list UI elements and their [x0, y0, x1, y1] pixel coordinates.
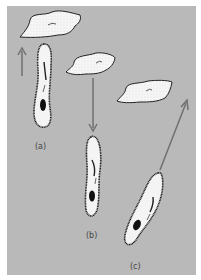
arrow-diagonal-icon	[160, 100, 188, 170]
arrow-down-icon	[89, 78, 97, 131]
food-particle-a	[20, 11, 81, 37]
label-b: (b)	[86, 231, 97, 240]
label-a: (a)	[35, 142, 46, 151]
organism-c	[125, 173, 163, 245]
food-particle-c	[117, 80, 172, 102]
arrow-up-icon	[18, 48, 26, 76]
label-c: (c)	[130, 262, 141, 271]
food-particle-b	[66, 53, 115, 75]
organism-b	[85, 136, 100, 216]
organism-a	[34, 44, 51, 127]
diagram-canvas	[0, 0, 201, 280]
